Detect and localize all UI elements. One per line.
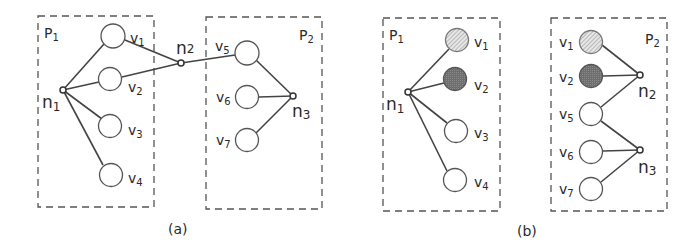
label-v2: v2 — [128, 79, 143, 97]
label-n3-b: n3 — [638, 157, 656, 178]
label-v5-b: v5 — [559, 106, 574, 124]
label-v7: v7 — [216, 132, 231, 150]
label-n3: n3 — [292, 101, 310, 122]
vertex-v4 — [444, 169, 467, 192]
label-v6-b: v6 — [559, 144, 574, 162]
edges-b — [408, 45, 640, 182]
vertex-v5 — [235, 41, 259, 65]
panel-b: P1 P2 v1 v2 v3 v4 v1 v2 v5 v6 v7 n1 n2 n… — [383, 18, 667, 239]
net-node-n3 — [637, 147, 643, 153]
vertex-v7 — [580, 178, 603, 201]
vertex-v3 — [99, 115, 122, 138]
vertex-v2-replica-dark — [580, 65, 603, 88]
label-v3-b: v3 — [474, 125, 489, 143]
label-p1: P1 — [44, 25, 59, 43]
vertex-v5 — [580, 103, 603, 126]
vertex-v1 — [101, 24, 125, 48]
net-node-n1 — [405, 89, 411, 95]
caption-a: (a) — [168, 221, 188, 237]
label-v1-b: v1 — [474, 34, 489, 52]
label-v5: v5 — [215, 38, 230, 56]
vertex-v3 — [445, 120, 468, 143]
vertex-v1-hatched — [446, 29, 469, 52]
label-n1: n1 — [42, 92, 60, 114]
label-p1-b: P1 — [389, 27, 404, 45]
label-n2: n2 — [176, 38, 194, 58]
label-v4-b: v4 — [474, 174, 489, 192]
vertex-v2-dark — [444, 68, 467, 91]
hypergraph-partition-figure: P1 P2 v1 v2 v3 v4 v5 v6 v7 n1 n2 n3 (a) — [0, 0, 697, 252]
label-v2-b: v2 — [474, 77, 489, 95]
label-p2-b: P2 — [645, 31, 660, 49]
label-v2-replica: v2 — [559, 69, 574, 87]
net-node-n2 — [637, 72, 643, 78]
vertex-v4 — [100, 164, 123, 187]
vertex-v7 — [236, 129, 259, 152]
label-v3: v3 — [128, 122, 143, 140]
vertex-v1-replica-hatched — [580, 31, 603, 54]
label-v1: v1 — [130, 30, 145, 48]
net-node-n2 — [178, 60, 184, 66]
vertex-v6 — [236, 86, 259, 109]
vertex-v2 — [99, 68, 122, 91]
caption-b: (b) — [517, 223, 537, 239]
panel-a: P1 P2 v1 v2 v3 v4 v5 v6 v7 n1 n2 n3 (a) — [38, 16, 322, 237]
net-node-n3 — [290, 93, 296, 99]
label-p2: P2 — [299, 27, 314, 45]
label-v4: v4 — [128, 170, 143, 188]
label-n2-b: n2 — [638, 81, 656, 102]
edges-a — [63, 40, 293, 165]
net-node-n1 — [60, 87, 66, 93]
label-v6: v6 — [216, 89, 231, 107]
label-n1-b: n1 — [386, 94, 404, 116]
label-v7-b: v7 — [559, 181, 574, 199]
label-v1-replica: v1 — [559, 34, 574, 52]
vertex-v6 — [580, 141, 603, 164]
